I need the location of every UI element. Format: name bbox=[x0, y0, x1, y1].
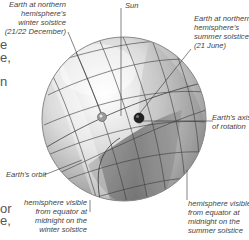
label-summer-hemisphere: hemisphere visible from equator at midni… bbox=[188, 199, 249, 235]
earth-summer-position bbox=[134, 113, 144, 123]
clipped-text-fragment: e, bbox=[0, 214, 11, 227]
label-summer-earth: Earth at northern hemisphere's summer so… bbox=[194, 14, 249, 50]
label-winter-earth: Earth at northern hemisphere's winter so… bbox=[5, 0, 66, 36]
label-earth-orbit: Earth's orbit bbox=[6, 170, 46, 179]
celestial-sphere bbox=[42, 30, 206, 215]
label-earth-axis: Earth's axis of rotation bbox=[212, 113, 249, 131]
label-sun: Sun bbox=[125, 1, 139, 10]
clipped-text-fragment: n bbox=[0, 75, 7, 88]
clipped-text-fragment: e, bbox=[0, 51, 11, 64]
label-winter-hemisphere: hemisphere visible from equator at midni… bbox=[24, 198, 87, 234]
